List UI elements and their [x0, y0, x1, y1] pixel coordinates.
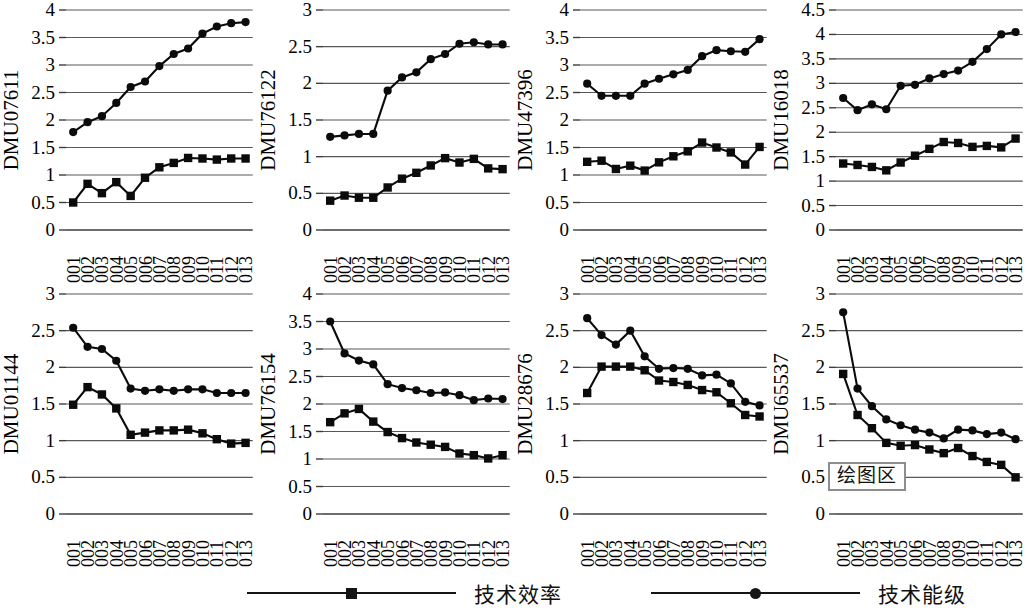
y-axis-tick-label: 0.5: [802, 466, 826, 487]
circle-marker-icon: [897, 421, 905, 429]
square-marker-icon: [184, 154, 192, 162]
square-marker-icon: [683, 381, 691, 389]
circle-marker-icon: [198, 30, 206, 38]
y-axis-tick-label: 3: [816, 284, 826, 304]
square-marker-icon: [484, 164, 492, 172]
square-marker-icon: [1012, 473, 1020, 481]
circle-marker-icon: [640, 352, 648, 360]
circle-marker-icon: [940, 70, 948, 78]
x-axis-tick-label: 2013: [493, 256, 513, 284]
square-marker-icon: [398, 434, 406, 442]
circle-marker-icon: [170, 387, 178, 395]
square-marker-icon: [839, 370, 847, 378]
circle-marker-icon: [369, 360, 377, 368]
circle-marker-icon: [469, 396, 477, 404]
y-axis-tick-label: 0.5: [31, 192, 55, 213]
circle-marker-icon: [498, 395, 506, 403]
square-marker-icon: [398, 174, 406, 182]
chart-panel-dmu76122: 00.511.522.53DMU761222001200220032004200…: [257, 0, 514, 284]
circle-marker-icon: [69, 128, 77, 136]
square-marker-icon: [155, 426, 163, 434]
y-axis-tick-label: 2: [46, 356, 56, 377]
circle-marker-icon: [755, 35, 763, 43]
circle-marker-icon: [1012, 435, 1020, 443]
circle-marker-icon: [911, 81, 919, 89]
square-marker-icon: [441, 443, 449, 451]
circle-marker-icon: [683, 365, 691, 373]
square-marker-icon: [611, 165, 619, 173]
y-axis-tick-label: 0: [816, 219, 826, 240]
y-axis-title: DMU28676: [514, 353, 537, 455]
square-marker-icon: [69, 198, 77, 206]
circle-marker-icon: [98, 345, 106, 353]
square-marker-icon: [98, 390, 106, 398]
y-axis-tick-label: 4: [559, 0, 569, 20]
x-axis-tick-label: 2013: [1006, 256, 1026, 284]
circle-marker-icon: [326, 317, 334, 325]
chart-panel-dmu65537: 00.511.522.53DMU655372001200220032004200…: [770, 284, 1027, 568]
circle-marker-icon: [969, 426, 977, 434]
y-axis-tick-label: 4.5: [802, 0, 826, 20]
circle-marker-icon: [854, 385, 862, 393]
legend-item-capability: 技术能级: [651, 578, 966, 608]
circle-marker-icon: [398, 384, 406, 392]
circle-marker-icon: [882, 415, 890, 423]
square-marker-icon: [882, 166, 890, 174]
square-marker-icon: [241, 439, 249, 447]
circle-marker-icon: [98, 112, 106, 120]
square-marker-icon: [597, 157, 605, 165]
circle-marker-icon: [611, 92, 619, 100]
square-marker-icon: [426, 441, 434, 449]
square-marker-icon: [954, 139, 962, 147]
circle-marker-icon: [626, 327, 634, 335]
square-marker-icon: [597, 362, 605, 370]
circle-marker-icon: [355, 356, 363, 364]
y-axis-tick-label: 1.5: [545, 393, 569, 414]
circle-marker-icon: [712, 371, 720, 379]
circle-marker-icon: [227, 389, 235, 397]
square-marker-icon: [1012, 134, 1020, 142]
square-marker-icon: [897, 442, 905, 450]
circle-marker-icon: [340, 349, 348, 357]
y-axis-tick-label: 1.5: [31, 137, 55, 158]
circle-marker-icon: [669, 70, 677, 78]
y-axis-tick-label: 2: [46, 109, 56, 130]
square-marker-icon: [755, 143, 763, 151]
y-axis-title: DMU07611: [0, 70, 23, 171]
square-marker-icon: [741, 160, 749, 168]
circle-marker-icon: [127, 83, 135, 91]
circle-marker-icon: [383, 87, 391, 95]
circle-marker-icon: [112, 357, 120, 365]
circle-marker-icon: [997, 429, 1005, 437]
circle-marker-icon: [583, 80, 591, 88]
circle-marker-icon: [669, 364, 677, 372]
circle-marker-icon: [911, 426, 919, 434]
chart-legend: 技术效率 技术能级: [0, 568, 1027, 614]
y-axis-tick-label: 2: [816, 121, 826, 142]
circle-marker-icon: [83, 118, 91, 126]
chart-panel-dmu28676: 00.511.522.53DMU286762001200220032004200…: [514, 284, 771, 568]
series-line-capability: [843, 32, 1015, 110]
square-marker-icon: [868, 163, 876, 171]
circle-marker-icon: [698, 371, 706, 379]
circle-marker-icon: [698, 52, 706, 60]
y-axis-tick-label: 1.5: [802, 393, 826, 414]
circle-marker-icon: [940, 434, 948, 442]
square-marker-icon: [868, 424, 876, 432]
circle-marker-icon: [412, 68, 420, 76]
x-axis-tick-label: 2013: [1006, 540, 1026, 568]
square-marker-icon: [969, 143, 977, 151]
square-marker-icon: [712, 143, 720, 151]
circle-marker-icon: [854, 106, 862, 114]
square-marker-icon: [441, 154, 449, 162]
circle-marker-icon: [198, 385, 206, 393]
square-marker-icon: [997, 461, 1005, 469]
square-marker-icon: [83, 180, 91, 188]
square-marker-icon: [170, 426, 178, 434]
y-axis-tick-label: 1: [559, 164, 569, 185]
circle-marker-icon: [640, 80, 648, 88]
y-axis-tick-label: 1: [46, 430, 56, 451]
square-marker-icon: [112, 404, 120, 412]
square-marker-icon: [997, 143, 1005, 151]
series-line-capability: [587, 318, 759, 405]
